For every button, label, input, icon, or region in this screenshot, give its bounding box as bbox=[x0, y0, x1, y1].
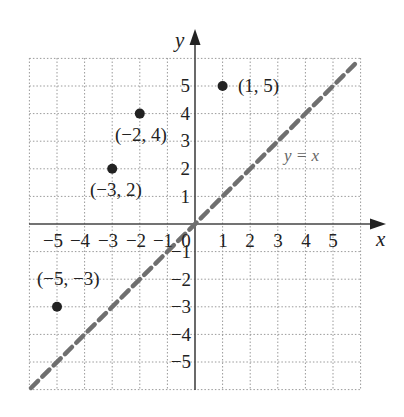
point-1-5 bbox=[218, 81, 228, 91]
line-equation-label: y = x bbox=[282, 146, 320, 165]
svg-text:−3: −3 bbox=[98, 230, 118, 251]
svg-text:3: 3 bbox=[181, 130, 191, 151]
svg-text:−4: −4 bbox=[171, 324, 192, 345]
point-label-1-5: (1, 5) bbox=[238, 75, 279, 97]
svg-text:1: 1 bbox=[218, 230, 228, 251]
svg-text:4: 4 bbox=[301, 230, 311, 251]
svg-text:5: 5 bbox=[328, 230, 338, 251]
svg-text:2: 2 bbox=[245, 230, 255, 251]
point-neg3-2 bbox=[107, 164, 117, 174]
point-neg5-neg3 bbox=[52, 302, 62, 312]
point-neg2-4 bbox=[135, 109, 145, 119]
svg-text:−2: −2 bbox=[171, 269, 191, 290]
point-label-neg5-neg3: (−5, −3) bbox=[37, 268, 100, 290]
svg-text:−5: −5 bbox=[171, 351, 191, 372]
svg-text:3: 3 bbox=[273, 230, 283, 251]
svg-text:1: 1 bbox=[181, 186, 191, 207]
y-axis-label: y bbox=[173, 28, 185, 52]
svg-text:−4: −4 bbox=[70, 230, 91, 251]
svg-text:−1: −1 bbox=[171, 241, 191, 262]
point-label-neg2-4: (−2, 4) bbox=[115, 124, 167, 146]
point-label-neg3-2: (−3, 2) bbox=[90, 179, 142, 201]
x-axis-label: x bbox=[375, 227, 386, 251]
svg-text:−3: −3 bbox=[171, 296, 191, 317]
svg-text:2: 2 bbox=[181, 158, 191, 179]
svg-text:−5: −5 bbox=[43, 230, 63, 251]
svg-text:−2: −2 bbox=[126, 230, 146, 251]
svg-text:4: 4 bbox=[181, 103, 191, 124]
y-axis-arrow-icon bbox=[190, 29, 201, 45]
svg-text:5: 5 bbox=[181, 75, 191, 96]
coordinate-plane: x y y = x −5 −4 −3 −2 −1 0 1 2 3 4 5 5 4… bbox=[0, 0, 404, 417]
